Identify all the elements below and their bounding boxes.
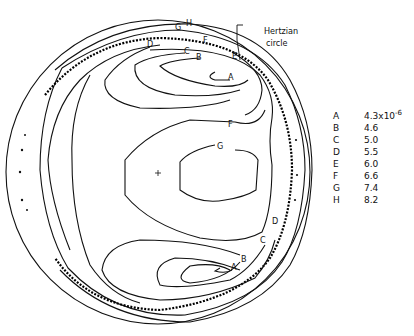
measurement-dots (19, 134, 298, 211)
svg-text:D: D (333, 147, 340, 157)
label-e: E (232, 51, 237, 61)
hertzian-circle (45, 38, 292, 310)
svg-text:6.0: 6.0 (364, 159, 379, 169)
contour-g-inner (180, 145, 258, 201)
contour-diagram: G H F D C B E A F G D C B A Hertzian cir… (0, 0, 414, 336)
label-a-top: A (228, 72, 234, 82)
label-b-bottom: B (241, 254, 247, 264)
contour-b-upper (160, 58, 248, 86)
svg-text:B: B (333, 123, 339, 133)
contour-e-upper (232, 52, 262, 115)
contour-f (125, 49, 273, 240)
contour-d-upper (105, 47, 230, 108)
contour-g (40, 30, 305, 315)
label-h: H (186, 18, 192, 28)
label-a-bottom: A (231, 262, 237, 272)
svg-text:H: H (333, 195, 340, 205)
svg-text:F: F (333, 171, 338, 181)
svg-text:5.0: 5.0 (364, 135, 379, 145)
hertzian-label-1: Hertzian (264, 26, 298, 36)
contour-left (72, 75, 140, 303)
center-mark (155, 170, 161, 176)
svg-text:4.6: 4.6 (364, 123, 379, 133)
hertzian-label-2: circle (266, 38, 288, 48)
contour-d-lower (102, 240, 275, 300)
contour-a-upper (210, 72, 230, 80)
svg-text:6.6: 6.6 (364, 171, 379, 181)
svg-text:4.3x10-6: 4.3x10-6 (364, 109, 403, 121)
svg-text:7.4: 7.4 (364, 183, 379, 193)
label-g-mid: G (217, 141, 223, 151)
svg-text:8.2: 8.2 (364, 195, 378, 205)
svg-text:E: E (333, 159, 339, 169)
contour-e (48, 45, 160, 250)
svg-text:C: C (333, 135, 339, 145)
label-c-top: C (184, 46, 190, 56)
label-b-top: B (196, 52, 202, 62)
svg-text:5.5: 5.5 (364, 147, 378, 157)
label-c-bottom: C (260, 235, 266, 245)
svg-text:A: A (333, 111, 340, 121)
label-d-top: D (147, 39, 153, 49)
label-d-bottom: D (272, 216, 278, 226)
legend: A 4.3x10-6 B4.6 C5.0 D5.5 E6.0 F6.6 G7.4… (333, 109, 403, 205)
svg-text:G: G (333, 183, 340, 193)
label-g: G (175, 22, 181, 32)
label-f-mid: F (228, 119, 233, 129)
label-f-top: F (203, 35, 208, 45)
